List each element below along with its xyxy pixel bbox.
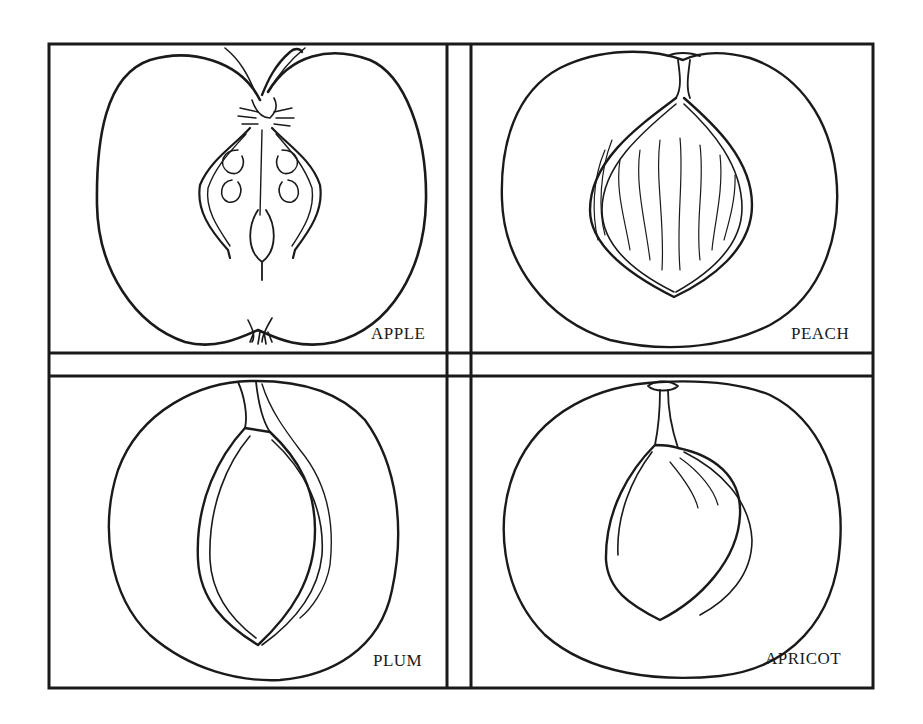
apple-label: APPLE (371, 325, 425, 342)
peach-illustration (502, 52, 837, 347)
peach-label: PEACH (791, 325, 849, 342)
plum-label: PLUM (373, 652, 422, 669)
apricot-illustration (504, 381, 841, 677)
grid-frame (49, 44, 873, 688)
figure-drawing (0, 0, 923, 724)
plum-illustration (109, 381, 398, 680)
fruit-cross-section-figure: APPLE PEACH PLUM APRICOT (0, 0, 923, 724)
apricot-label: APRICOT (765, 650, 841, 667)
apple-illustration (97, 48, 426, 345)
